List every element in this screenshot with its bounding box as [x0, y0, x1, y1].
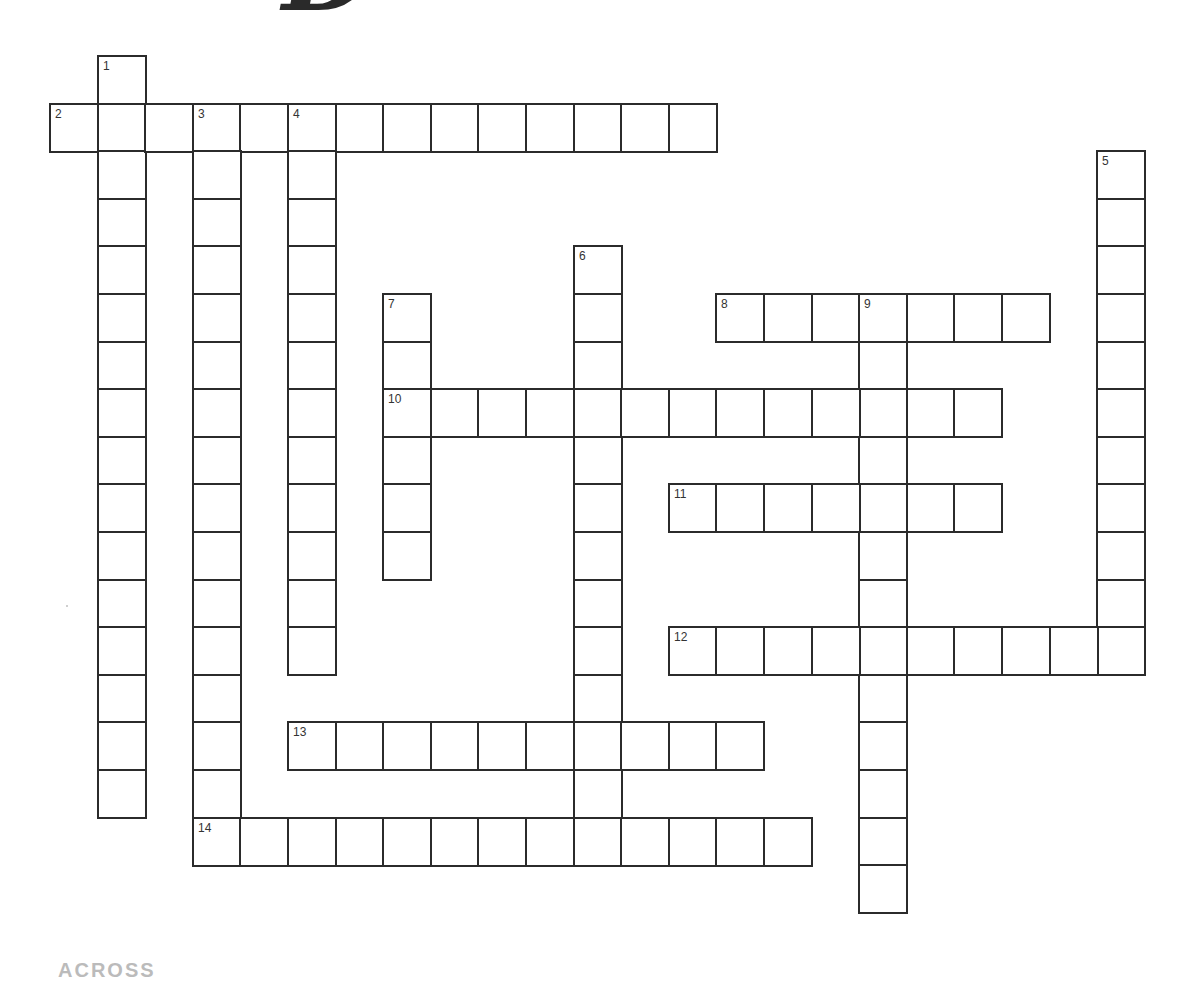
crossword-cell[interactable]	[573, 721, 623, 771]
crossword-cell[interactable]	[573, 388, 623, 438]
crossword-cell[interactable]: 6	[573, 245, 623, 295]
crossword-cell[interactable]	[906, 388, 956, 438]
crossword-cell[interactable]	[858, 674, 908, 724]
crossword-cell[interactable]	[287, 245, 337, 295]
crossword-cell[interactable]	[858, 817, 908, 867]
crossword-cell[interactable]	[1001, 626, 1051, 676]
crossword-cell[interactable]	[811, 483, 861, 533]
crossword-cell[interactable]	[906, 293, 956, 343]
crossword-cell[interactable]	[1096, 626, 1146, 676]
crossword-cell[interactable]	[668, 388, 718, 438]
crossword-cell[interactable]	[953, 293, 1003, 343]
crossword-cell[interactable]	[573, 579, 623, 629]
crossword-cell[interactable]	[573, 483, 623, 533]
crossword-cell[interactable]: 10	[382, 388, 432, 438]
crossword-cell[interactable]	[287, 388, 337, 438]
crossword-cell[interactable]	[858, 341, 908, 391]
crossword-cell[interactable]	[573, 341, 623, 391]
crossword-cell[interactable]	[430, 721, 480, 771]
crossword-cell[interactable]	[573, 769, 623, 819]
crossword-cell[interactable]	[620, 103, 670, 153]
crossword-cell[interactable]	[382, 817, 432, 867]
crossword-cell[interactable]: 14	[192, 817, 242, 867]
crossword-cell[interactable]	[525, 103, 575, 153]
crossword-cell[interactable]	[906, 626, 956, 676]
crossword-cell[interactable]	[97, 436, 147, 486]
crossword-cell[interactable]	[858, 579, 908, 629]
crossword-cell[interactable]	[953, 483, 1003, 533]
crossword-cell[interactable]	[192, 769, 242, 819]
crossword-cell[interactable]	[858, 769, 908, 819]
crossword-cell[interactable]	[1096, 245, 1146, 295]
crossword-cell[interactable]: 1	[97, 55, 147, 105]
crossword-cell[interactable]	[573, 626, 623, 676]
crossword-cell[interactable]	[382, 531, 432, 581]
crossword-cell[interactable]	[192, 579, 242, 629]
crossword-cell[interactable]	[335, 817, 385, 867]
crossword-cell[interactable]	[287, 626, 337, 676]
crossword-cell[interactable]	[763, 388, 813, 438]
crossword-cell[interactable]	[858, 626, 908, 676]
crossword-cell[interactable]	[192, 293, 242, 343]
crossword-cell[interactable]	[715, 721, 765, 771]
crossword-cell[interactable]	[287, 579, 337, 629]
crossword-cell[interactable]	[192, 341, 242, 391]
crossword-cell[interactable]	[811, 388, 861, 438]
crossword-cell[interactable]	[525, 388, 575, 438]
crossword-cell[interactable]	[858, 436, 908, 486]
crossword-cell[interactable]: 8	[715, 293, 765, 343]
crossword-cell[interactable]	[573, 293, 623, 343]
crossword-cell[interactable]	[382, 103, 432, 153]
crossword-cell[interactable]: 7	[382, 293, 432, 343]
crossword-cell[interactable]: 12	[668, 626, 718, 676]
crossword-cell[interactable]	[763, 293, 813, 343]
crossword-cell[interactable]	[192, 436, 242, 486]
crossword-cell[interactable]	[97, 150, 147, 200]
crossword-cell[interactable]	[97, 483, 147, 533]
crossword-cell[interactable]	[1096, 198, 1146, 248]
crossword-cell[interactable]	[573, 103, 623, 153]
crossword-cell[interactable]	[382, 721, 432, 771]
crossword-cell[interactable]	[382, 341, 432, 391]
crossword-cell[interactable]	[144, 103, 194, 153]
crossword-cell[interactable]	[715, 817, 765, 867]
crossword-cell[interactable]	[192, 198, 242, 248]
crossword-cell[interactable]	[239, 817, 289, 867]
crossword-cell[interactable]	[97, 293, 147, 343]
crossword-cell[interactable]	[287, 198, 337, 248]
crossword-cell[interactable]	[763, 483, 813, 533]
crossword-cell[interactable]	[858, 864, 908, 914]
crossword-cell[interactable]	[97, 674, 147, 724]
crossword-cell[interactable]	[858, 388, 908, 438]
crossword-cell[interactable]	[620, 388, 670, 438]
crossword-cell[interactable]	[192, 483, 242, 533]
crossword-cell[interactable]	[1096, 341, 1146, 391]
crossword-cell[interactable]	[953, 388, 1003, 438]
crossword-cell[interactable]	[430, 103, 480, 153]
crossword-cell[interactable]	[287, 436, 337, 486]
crossword-cell[interactable]	[1096, 483, 1146, 533]
crossword-cell[interactable]	[668, 817, 718, 867]
crossword-cell[interactable]	[811, 293, 861, 343]
crossword-cell[interactable]	[715, 483, 765, 533]
crossword-cell[interactable]: 5	[1096, 150, 1146, 200]
crossword-cell[interactable]	[763, 626, 813, 676]
crossword-cell[interactable]	[430, 388, 480, 438]
crossword-cell[interactable]	[287, 531, 337, 581]
crossword-cell[interactable]	[97, 721, 147, 771]
crossword-cell[interactable]	[858, 721, 908, 771]
crossword-cell[interactable]	[97, 769, 147, 819]
crossword-cell[interactable]	[1096, 531, 1146, 581]
crossword-cell[interactable]	[1096, 436, 1146, 486]
crossword-cell[interactable]	[192, 245, 242, 295]
crossword-cell[interactable]	[573, 436, 623, 486]
crossword-cell[interactable]	[763, 817, 813, 867]
crossword-cell[interactable]	[477, 103, 527, 153]
crossword-cell[interactable]: 3	[192, 103, 242, 153]
crossword-cell[interactable]	[97, 579, 147, 629]
crossword-cell[interactable]	[477, 388, 527, 438]
crossword-cell[interactable]	[430, 817, 480, 867]
crossword-cell[interactable]	[668, 103, 718, 153]
crossword-cell[interactable]	[192, 150, 242, 200]
crossword-cell[interactable]	[335, 721, 385, 771]
